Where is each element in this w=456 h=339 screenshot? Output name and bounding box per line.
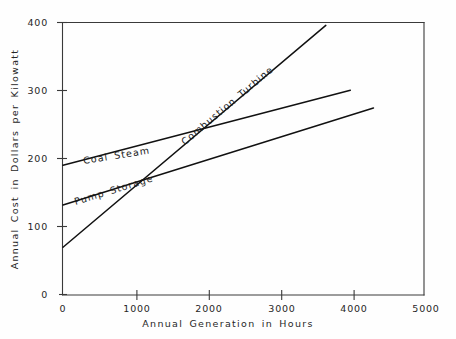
x-tick-label-4000: 4000: [340, 303, 367, 314]
y-axis-title: Annual Cost in Dollars per Kilowatt: [9, 49, 20, 270]
series-lines: [63, 25, 373, 247]
x-tick-label-0: 0: [60, 303, 67, 314]
y-tick-label-0: 0: [12, 289, 48, 300]
x-axis-title: Annual Generation in Hours: [142, 318, 313, 329]
chart-figure: 400 300 200 100 0 0 1000 2000 3000 4000 …: [0, 0, 456, 339]
chart-plot-area: [0, 0, 456, 339]
x-tick-label-5000: 5000: [412, 303, 439, 314]
x-tick-label-3000: 3000: [268, 303, 295, 314]
y-tick-label-400: 400: [12, 17, 48, 28]
x-tick-label-1000: 1000: [123, 303, 150, 314]
x-tick-label-2000: 2000: [195, 303, 222, 314]
